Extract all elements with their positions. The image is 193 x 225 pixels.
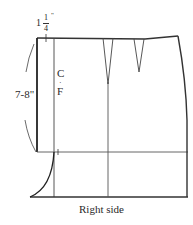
top-measure-fraction: 1 4 <box>43 14 49 33</box>
top-measure-whole: 1 <box>36 18 41 28</box>
side-measure-label: 7-8" <box>15 89 34 100</box>
waist-line <box>37 36 178 39</box>
dart-1 <box>103 38 113 84</box>
side-seam-curve <box>178 36 187 197</box>
pattern-drawing <box>0 0 193 225</box>
dart-2 <box>134 39 144 72</box>
top-measure-unit: " <box>51 12 54 19</box>
center-front-f: F <box>57 86 63 97</box>
crotch-curve <box>30 152 54 197</box>
measure-arc-bottom <box>25 120 36 152</box>
fraction-denominator: 4 <box>44 25 48 33</box>
caption: Right side <box>79 204 124 215</box>
fraction-numerator: 1 <box>44 14 48 22</box>
measure-arc-top <box>26 44 34 72</box>
